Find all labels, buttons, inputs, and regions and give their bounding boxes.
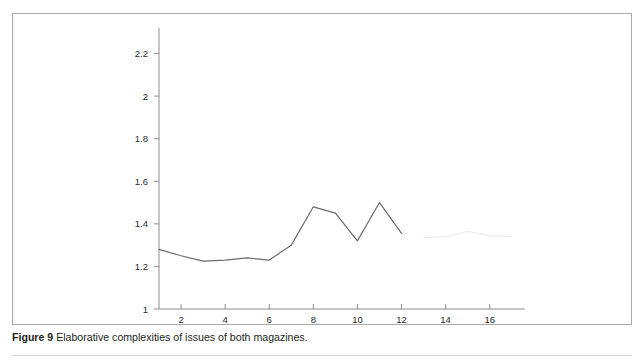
y-tick-label: 1.2 — [135, 261, 148, 272]
x-tick-label: 14 — [440, 314, 451, 324]
y-axis-tick-labels: 11.21.41.61.822.2 — [135, 48, 148, 314]
chart-plot-area: 11.21.41.61.822.2 246810121416 — [13, 14, 631, 324]
figure-9: 11.21.41.61.822.2 246810121416 Figure 9 … — [0, 0, 644, 363]
chart-series-group — [159, 203, 512, 262]
x-tick-label: 8 — [311, 314, 316, 324]
figure-caption: Figure 9 Elaborative complexities of iss… — [12, 330, 632, 348]
y-axis: 11.21.41.61.822.2 — [135, 28, 159, 315]
x-tick-label: 16 — [484, 314, 495, 324]
caption-body: Elaborative complexities of issues of bo… — [53, 331, 307, 343]
caption-text: Figure 9 Elaborative complexities of iss… — [12, 330, 632, 344]
line-chart: 11.21.41.61.822.2 246810121416 — [13, 14, 631, 324]
figure-border: 11.21.41.61.822.2 246810121416 — [12, 13, 632, 325]
magazine-series-faint — [424, 231, 512, 237]
y-tick-label: 1.8 — [135, 133, 148, 144]
y-axis-ticks — [154, 54, 159, 309]
y-tick-label: 1 — [143, 304, 148, 315]
x-tick-label: 6 — [267, 314, 272, 324]
x-axis: 246810121416 — [159, 304, 525, 324]
x-tick-label: 12 — [396, 314, 407, 324]
y-tick-label: 1.6 — [135, 176, 148, 187]
x-tick-label: 2 — [178, 314, 183, 324]
y-tick-label: 2.2 — [135, 48, 148, 59]
x-axis-tick-labels: 246810121416 — [178, 314, 495, 324]
x-tick-label: 10 — [352, 314, 363, 324]
caption-divider — [12, 355, 632, 356]
y-tick-label: 2 — [143, 91, 148, 102]
magazine-series-primary — [159, 203, 402, 262]
y-tick-label: 1.4 — [135, 218, 148, 229]
caption-label: Figure 9 — [12, 331, 53, 343]
x-tick-label: 4 — [222, 314, 227, 324]
x-axis-ticks — [181, 304, 490, 309]
